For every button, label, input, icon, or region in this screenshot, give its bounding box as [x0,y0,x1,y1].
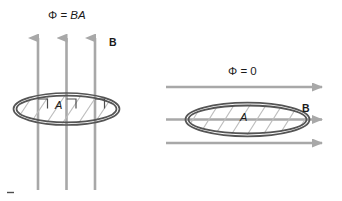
left-flux-equals: = [60,9,67,21]
left-flux-symbol: Φ [48,9,57,21]
physics-flux-diagram: Φ = BA B A Φ = 0 B A [0,0,342,201]
right-flux-equals: = [240,65,247,77]
right-angle-mark-2 [67,99,77,109]
right-flux-symbol: Φ [228,65,237,77]
right-field-label: B [302,103,310,114]
left-field-label: B [109,37,117,48]
right-flux-value: 0 [250,65,256,77]
left-field-lines [38,38,95,190]
left-panel-group [7,38,130,193]
diagram-canvas [0,0,342,201]
right-area-label: A [240,112,247,123]
left-flux-label: Φ = BA [48,10,86,22]
left-flux-value: BA [70,9,85,21]
right-flux-label: Φ = 0 [228,66,257,78]
left-area-label: A [55,100,62,111]
